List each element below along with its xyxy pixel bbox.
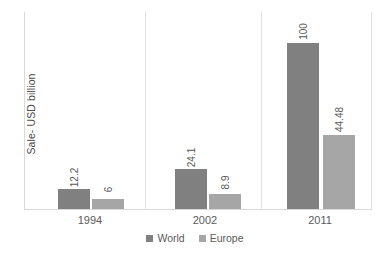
legend-swatch-europe-icon <box>199 235 206 242</box>
bar-value-1994-world: 12.2 <box>69 148 80 208</box>
bar-value-1994-europe: 6 <box>103 160 114 220</box>
bar-group-1994: 12.2 6 <box>24 12 145 209</box>
legend-swatch-world-icon <box>146 235 153 242</box>
legend-label-world: World <box>157 232 184 244</box>
x-tick-label-2011: 2011 <box>280 214 360 226</box>
bar-chart: Sale- USD billion 12.2 6 <box>0 0 390 260</box>
legend-label-europe: Europe <box>210 232 244 244</box>
x-tick-label-1994: 1994 <box>50 214 130 226</box>
chart-legend: World Europe <box>0 232 390 244</box>
bar-value-2002-world: 24.1 <box>186 128 197 188</box>
plot-area: 12.2 6 24.1 8.9 <box>24 12 372 210</box>
legend-item-europe[interactable]: Europe <box>199 232 244 244</box>
legend-item-world[interactable]: World <box>146 232 184 244</box>
bar-value-2002-europe: 8.9 <box>220 153 231 213</box>
x-axis-line <box>24 209 372 210</box>
cropped-caption-strip <box>6 252 336 258</box>
bar-value-2011-world: 100 <box>298 2 309 62</box>
x-tick-label-2002: 2002 <box>165 214 245 226</box>
bar-group-2011: 100 44.48 <box>261 12 372 209</box>
bar-value-2011-europe: 44.48 <box>334 90 345 150</box>
bar-2011-world[interactable] <box>287 43 319 209</box>
bar-group-2002: 24.1 8.9 <box>145 12 261 209</box>
